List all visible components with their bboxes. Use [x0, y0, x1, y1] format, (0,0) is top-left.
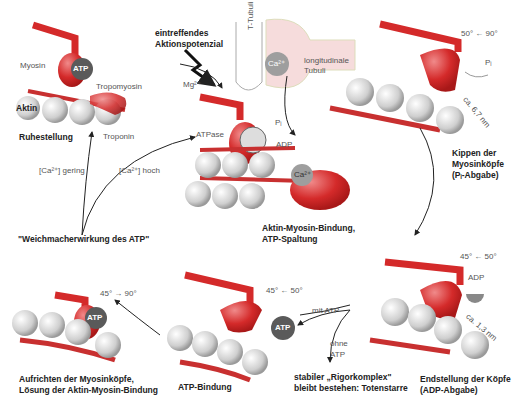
label-bindung-1: Aktin-Myosin-Bindung,: [262, 223, 355, 234]
label-atp-bindung: ATP-Bindung: [178, 382, 232, 393]
panel-straighten: [12, 295, 121, 360]
label-pi-tr: Pᵢ: [485, 58, 492, 68]
label-atpase: ATPase: [196, 130, 224, 140]
label-ca-gering: [Ca²⁺] gering: [39, 166, 85, 176]
label-ca-tubuli: Ca²⁺: [268, 59, 285, 69]
label-angle-bm: 45° ← 50°: [266, 286, 303, 296]
label-longitudinal-2: Tubuli: [304, 66, 326, 76]
label-angle-tr: 50° ← 90°: [461, 29, 498, 39]
label-kippen-2: Myosinköpfe: [452, 159, 504, 170]
label-troponin: Troponin: [103, 132, 134, 142]
label-aufrichten-1: Aufrichten der Myosinköpfe,: [19, 374, 134, 385]
label-aktionspotenzial-1: eintreffendes: [155, 28, 208, 39]
label-ca-bound: Ca²⁺: [294, 170, 311, 180]
label-atp-1: ATP: [73, 64, 88, 74]
label-pi: Pᵢ: [275, 118, 282, 128]
label-tropomyosin: Tropomyosin: [96, 82, 142, 92]
label-ohne-atp-1: ohne: [330, 339, 348, 349]
label-aufrichten-2: Lösung der Aktin-Myosin-Bindung: [19, 385, 158, 396]
panel-atp-binding: [115, 275, 350, 380]
label-t-tubuli: T-Tubuli: [246, 1, 256, 30]
label-mit-atp: mit ATP: [312, 306, 339, 316]
panel-binding: [185, 97, 350, 210]
label-myosin: Myosin: [20, 61, 45, 71]
label-aktin: Aktin: [16, 103, 37, 114]
label-atp-bl: ATP: [87, 313, 102, 323]
label-longitudinal-1: longitudinale: [304, 56, 349, 66]
label-angle-br: 45° ← 50°: [460, 252, 497, 262]
label-ohne-atp-2: ATP: [330, 350, 345, 360]
label-aktionspotenzial-2: Aktionspotenzial: [155, 39, 223, 50]
label-kippen-1: Kippen der: [452, 148, 496, 159]
cross-bridge-cycle-diagram: [0, 0, 521, 402]
label-weichmacher: "Weichmacherwirkung des ATP": [18, 234, 149, 245]
label-mg: Mg²⁺: [183, 80, 201, 90]
label-rigor-2: bleibt bestehen: Totenstarre: [294, 383, 408, 394]
label-adp-br: ADP: [468, 273, 484, 283]
label-bindung-2: ATP-Spaltung: [262, 234, 318, 245]
label-angle-bl: 45° → 90°: [100, 289, 137, 299]
label-end-1: Endstellung der Köpfe: [420, 374, 511, 385]
label-atp-free: ATP: [275, 323, 290, 333]
label-ca-hoch: [Ca²⁺] hoch: [119, 166, 160, 176]
label-ruhestellung: Ruhestellung: [19, 132, 73, 143]
label-kippen-3: (Pᵢ-Abgabe): [452, 170, 499, 181]
label-adp: ADP: [276, 140, 292, 150]
label-rigor-1: stabiler „Rigorkomplex": [294, 372, 392, 383]
label-end-2: (ADP-Abgabe): [420, 385, 478, 396]
